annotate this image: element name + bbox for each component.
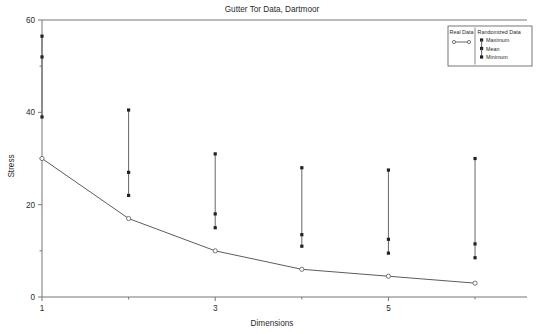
chart-container: Gutter Tor Data, Dartmoor 135 0204060 Di… — [0, 0, 544, 334]
real-data-point — [127, 216, 131, 220]
x-tick-label: 5 — [386, 304, 391, 313]
legend-entry-minimum: Minimum — [486, 54, 508, 60]
errorbar-mean-marker — [40, 55, 43, 58]
errorbar-min-marker — [387, 252, 390, 255]
legend-entry-maximum: Maximum — [486, 37, 510, 43]
errorbar-mean-marker — [473, 242, 476, 245]
legend-randomized-data-header: Randomized Data — [478, 29, 521, 35]
errorbar-max-marker — [214, 152, 217, 155]
errorbar-min-marker — [300, 245, 303, 248]
errorbar-min-marker — [40, 115, 43, 118]
legend-real-data-start-point — [452, 40, 455, 43]
y-tick-label: 20 — [26, 201, 36, 210]
y-axis-label: Stress — [7, 154, 16, 177]
legend-entry-minimum-marker — [480, 55, 483, 58]
real-data-point — [386, 274, 390, 278]
errorbar-mean-marker — [387, 238, 390, 241]
stress-vs-dimensions-chart: Gutter Tor Data, Dartmoor 135 0204060 Di… — [0, 0, 544, 334]
y-tick-label: 40 — [26, 108, 36, 117]
x-tick-label: 1 — [40, 304, 45, 313]
real-data-point — [473, 281, 477, 285]
chart-legend: Real DataRandomized DataMaximumMeanMinim… — [448, 26, 532, 66]
legend-entry-mean: Mean — [486, 46, 500, 52]
errorbar-min-marker — [473, 256, 476, 259]
errorbar-max-marker — [40, 35, 43, 38]
real-data-point — [213, 249, 217, 253]
chart-title: Gutter Tor Data, Dartmoor — [225, 5, 320, 14]
errorbar-mean-marker — [300, 233, 303, 236]
errorbar-max-marker — [127, 108, 130, 111]
errorbar-min-marker — [214, 226, 217, 229]
y-tick-label: 0 — [30, 293, 35, 302]
errorbar-mean-marker — [127, 171, 130, 174]
real-data-point — [300, 267, 304, 271]
errorbar-max-marker — [473, 157, 476, 160]
legend-real-data-header: Real Data — [450, 29, 474, 35]
errorbar-min-marker — [127, 194, 130, 197]
errorbar-max-marker — [387, 168, 390, 171]
errorbar-max-marker — [300, 166, 303, 169]
real-data-point — [40, 156, 44, 160]
errorbar-mean-marker — [214, 212, 217, 215]
y-tick-label: 60 — [26, 16, 36, 25]
x-tick-label: 3 — [213, 304, 218, 313]
legend-real-data-end-point — [467, 40, 470, 43]
x-axis-label: Dimensions — [251, 319, 294, 328]
